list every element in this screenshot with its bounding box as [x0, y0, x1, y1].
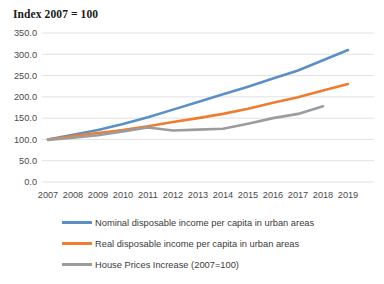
x-axis-tick-label: 2013 [188, 190, 208, 200]
data-series-group [48, 50, 348, 140]
x-axis-tick-label: 2015 [238, 190, 258, 200]
y-axis-tick-label: 300.0 [14, 50, 37, 60]
x-axis-tick-label: 2014 [213, 190, 233, 200]
x-axis-tick-label: 2019 [338, 190, 358, 200]
legend-item[interactable]: House Prices Increase (2007=100) [62, 254, 384, 275]
series-line [48, 106, 323, 140]
plot-area: 0.050.0100.0150.0200.0250.0300.0350.0 20… [0, 0, 384, 212]
x-axis-tick-label: 2017 [288, 190, 308, 200]
legend-item-label: Nominal disposable income per capita in … [95, 218, 314, 228]
y-axis-tick-label: 250.0 [14, 71, 37, 81]
x-axis-tick-label: 2009 [88, 190, 108, 200]
x-axis-tick-label: 2016 [263, 190, 283, 200]
y-axis-tick-label: 200.0 [14, 92, 37, 102]
y-axis-tick-label: 150.0 [14, 113, 37, 123]
y-axis-tick-labels: 0.050.0100.0150.0200.0250.0300.0350.0 [14, 28, 37, 187]
y-axis-tick-label: 100.0 [14, 135, 37, 145]
y-axis-tick-label: 350.0 [14, 28, 37, 38]
legend-color-swatch [62, 221, 92, 224]
legend-item[interactable]: Nominal disposable income per capita in … [62, 212, 384, 233]
x-axis-tick-label: 2012 [163, 190, 183, 200]
y-axis-tick-label: 50.0 [19, 156, 37, 166]
legend-item-label: Real disposable income per capita in urb… [95, 239, 299, 249]
x-axis-tick-label: 2011 [138, 190, 158, 200]
x-axis-tick-label: 2007 [38, 190, 58, 200]
x-axis-tick-label: 2008 [63, 190, 83, 200]
chart-legend: Nominal disposable income per capita in … [62, 212, 384, 275]
legend-color-swatch [62, 263, 92, 266]
x-axis-tick-label: 2018 [313, 190, 333, 200]
legend-color-swatch [62, 242, 92, 245]
legend-item-label: House Prices Increase (2007=100) [95, 260, 239, 270]
chart-container: Index 2007 = 100 0.050.0100.0150.0200.02… [0, 0, 384, 284]
gridlines [42, 33, 374, 182]
x-axis-tick-label: 2010 [113, 190, 133, 200]
legend-item[interactable]: Real disposable income per capita in urb… [62, 233, 384, 254]
y-axis-tick-label: 0.0 [24, 177, 37, 187]
x-axis-tick-labels: 2007200820092010201120122013201420152016… [38, 190, 358, 200]
